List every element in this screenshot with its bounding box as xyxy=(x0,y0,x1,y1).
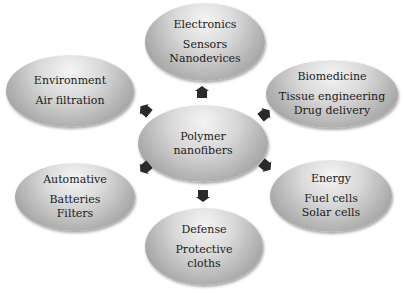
node-electronics: Electronics Sensors Nanodevices xyxy=(145,3,265,81)
node-environment: Environment Air filtration xyxy=(6,55,134,127)
node-biomedicine: Biomedicine Tissue engineering Drug deli… xyxy=(266,60,398,128)
arrow-up-left-icon xyxy=(136,101,154,119)
node-item: Drug delivery xyxy=(294,104,370,118)
node-item: Sensors xyxy=(183,38,227,52)
node-item: cloths xyxy=(187,257,220,271)
node-energy: Energy Fuel cells Solar cells xyxy=(270,160,392,232)
node-polymer-nanofibers: Polymer nanofibers xyxy=(138,105,268,182)
center-title-line-2: nanofibers xyxy=(173,144,232,158)
node-item: Solar cells xyxy=(302,206,360,220)
node-item: Air filtration xyxy=(36,94,105,108)
node-title: Defense xyxy=(181,223,226,237)
node-title: Biomedicine xyxy=(298,70,367,84)
node-item: Fuel cells xyxy=(304,192,358,206)
node-item: Filters xyxy=(57,207,94,221)
node-automative: Automative Batteries Filters xyxy=(15,163,135,231)
node-title: Energy xyxy=(311,172,351,186)
node-item: Batteries xyxy=(50,193,101,207)
arrow-down-icon xyxy=(196,190,210,202)
node-item: Tissue engineering xyxy=(279,90,385,104)
arrow-up-icon xyxy=(195,86,209,98)
node-title: Electronics xyxy=(174,18,237,32)
node-item: Nanodevices xyxy=(169,52,241,66)
node-defense: Defense Protective cloths xyxy=(145,208,263,285)
polymer-nanofiber-applications-diagram: Electronics Sensors Nanodevices Environm… xyxy=(0,0,403,298)
center-title-line-1: Polymer xyxy=(180,130,226,144)
node-title: Automative xyxy=(43,173,107,187)
node-item: Protective xyxy=(175,243,232,257)
node-title: Environment xyxy=(34,74,106,88)
